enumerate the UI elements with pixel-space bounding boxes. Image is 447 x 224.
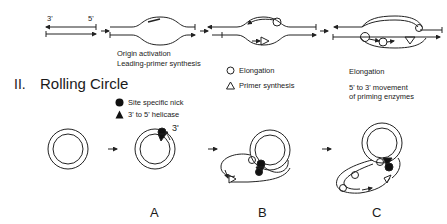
theta-legend: Elongation Primer synthesis xyxy=(226,66,294,90)
elongation-stage xyxy=(333,16,442,48)
circular-dna-initial xyxy=(48,129,88,169)
panel-b-diagram xyxy=(221,130,290,183)
linear-duplex-stage xyxy=(46,24,96,37)
panel-label-b: B xyxy=(258,205,267,220)
triangle-outline-icon xyxy=(226,81,235,90)
elongation-caption: Elongation 5' to 3' movement of priming … xyxy=(349,67,414,102)
diagram-canvas xyxy=(0,0,447,224)
rolling-circle-legend: Site specific nick 3' to 5' helicase xyxy=(115,98,183,119)
panel-label-a: A xyxy=(150,205,159,220)
origin-activation-caption: Origin activation Leading-primer synthes… xyxy=(117,49,201,68)
end-label-3prime: 3' xyxy=(47,14,53,23)
primase-icon xyxy=(261,37,269,45)
nick-3prime-label: 3' xyxy=(172,123,179,133)
origin-activation-stage xyxy=(110,17,195,45)
primer-synthesis-stage xyxy=(208,17,316,45)
legend-primer-synthesis: Primer synthesis xyxy=(226,81,294,91)
legend-site-specific-nick: Site specific nick xyxy=(115,98,183,108)
filled-triangle-icon xyxy=(115,110,124,119)
panel-a-diagram xyxy=(135,128,175,169)
panel-c-diagram xyxy=(337,123,402,193)
filled-circle-icon xyxy=(115,98,124,107)
panel-label-c: C xyxy=(372,205,381,220)
circle-outline-icon xyxy=(226,66,235,75)
section-number: II. xyxy=(14,76,26,92)
section-title: Rolling Circle xyxy=(40,75,128,92)
end-label-5prime: 5' xyxy=(88,14,94,23)
legend-elongation: Elongation xyxy=(226,66,294,76)
legend-helicase: 3' to 5' helicase xyxy=(115,110,183,120)
